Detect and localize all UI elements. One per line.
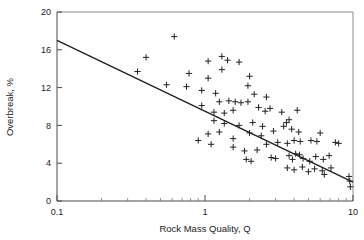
data-point-marker [211, 118, 217, 124]
data-point-marker [300, 155, 306, 161]
data-point-marker [230, 136, 236, 142]
data-point-marker [246, 130, 252, 136]
data-point-marker [163, 82, 169, 88]
data-point-marker [326, 153, 332, 159]
data-point-marker [251, 91, 257, 97]
data-point-marker [258, 133, 264, 139]
data-point-marker [186, 70, 192, 76]
x-axis-tick-labels: 0.1110 [51, 207, 358, 217]
data-point-marker [230, 144, 236, 150]
y-axis-tick-labels: 048121620 [41, 7, 51, 206]
data-point-marker [205, 58, 211, 64]
data-point-marker [332, 139, 338, 145]
data-point-marker [308, 137, 314, 143]
data-point-marker [246, 73, 252, 79]
data-point-marker [195, 137, 201, 143]
data-point-marker [250, 119, 256, 125]
scatter-chart: 0.1110 048121620 Rock Mass Quality, Q Ov… [0, 0, 364, 240]
data-point-marker [294, 107, 300, 113]
data-point-marker [219, 67, 225, 73]
data-point-marker [134, 68, 140, 74]
data-point-marker [226, 98, 232, 104]
data-point-marker [317, 130, 323, 136]
data-point-marker [236, 122, 242, 128]
data-point-marker [314, 138, 320, 144]
x-tick-label: 10 [348, 207, 358, 217]
data-point-marker [213, 90, 219, 96]
data-point-marker [216, 99, 222, 105]
data-point-marker [284, 140, 290, 146]
data-point-marker [205, 131, 211, 137]
data-point-marker [289, 126, 295, 132]
data-point-marker [336, 140, 342, 146]
data-point-marker [297, 138, 303, 144]
data-point-marker [284, 165, 290, 171]
data-point-marker [199, 87, 205, 93]
y-tick-label: 8 [46, 121, 51, 131]
data-point-marker [313, 153, 319, 159]
data-point-marker [286, 153, 292, 159]
y-tick-label: 20 [41, 7, 51, 17]
data-point-marker [241, 148, 247, 154]
x-axis-title: Rock Mass Quality, Q [159, 223, 250, 234]
data-point-marker [238, 100, 244, 106]
y-tick-label: 12 [41, 83, 51, 93]
data-point-marker [224, 57, 230, 63]
data-point-marker [232, 99, 238, 105]
data-point-marker [281, 123, 287, 129]
data-point-marker [296, 129, 302, 135]
data-point-marker [255, 104, 261, 110]
data-point-marker [262, 108, 268, 114]
x-tick-label: 0.1 [51, 207, 64, 217]
data-point-marker [263, 94, 269, 100]
data-point-marker [205, 75, 211, 81]
data-point-marker [254, 147, 260, 153]
y-tick-label: 4 [46, 158, 51, 168]
data-point-marker [320, 156, 326, 162]
chart-canvas: 0.1110 048121620 Rock Mass Quality, Q Ov… [0, 0, 364, 240]
y-tick-label: 0 [46, 196, 51, 206]
data-point-marker [279, 109, 285, 115]
data-point-marker [267, 105, 273, 111]
data-point-marker [216, 129, 222, 135]
data-point-marker [270, 128, 276, 134]
data-point-marker [291, 137, 297, 143]
data-point-marker [143, 54, 149, 60]
data-point-marker [230, 107, 236, 113]
data-point-marker [236, 59, 242, 65]
data-point-marker [219, 53, 225, 59]
data-point-marker [221, 110, 227, 116]
data-point-marker [307, 158, 313, 164]
data-point-marker [273, 155, 279, 161]
data-point-marker [245, 83, 251, 89]
data-point-marker [245, 99, 251, 105]
data-point-marker [171, 33, 177, 39]
data-point-marker [259, 123, 265, 129]
y-tick-label: 16 [41, 45, 51, 55]
data-point-marker [311, 166, 317, 172]
y-axis-title: Overbreak, % [4, 77, 15, 136]
data-point-marker [208, 141, 214, 147]
x-axis-ticks [57, 195, 353, 201]
x-tick-label: 1 [202, 207, 207, 217]
data-point-marker [305, 169, 311, 175]
data-point-marker [291, 167, 297, 173]
data-point-marker [199, 102, 205, 108]
data-point-marker [299, 164, 305, 170]
data-point-marker [289, 156, 295, 162]
data-point-marker [183, 84, 189, 90]
data-point-marker [268, 154, 274, 160]
